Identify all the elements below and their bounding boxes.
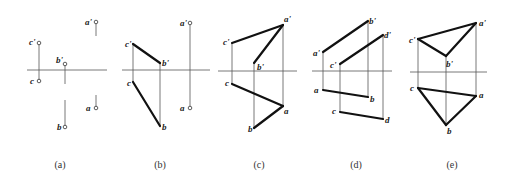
point-label: b' bbox=[369, 16, 377, 26]
edge-line bbox=[232, 84, 283, 106]
point-label: a bbox=[284, 106, 289, 116]
point-label: b bbox=[370, 94, 375, 104]
point-label: c bbox=[30, 76, 34, 86]
point-marker-icon bbox=[37, 79, 41, 83]
edge-line bbox=[133, 82, 160, 126]
point-label: c' bbox=[125, 39, 132, 49]
edge-line bbox=[323, 90, 368, 97]
point-label: b' bbox=[446, 59, 454, 69]
point-marker-icon bbox=[37, 41, 41, 45]
caption-group: (a)(b)(c)(d)(e) bbox=[54, 159, 457, 171]
point-marker-icon bbox=[94, 20, 98, 24]
point-marker-icon bbox=[63, 62, 67, 66]
edge-line bbox=[323, 21, 368, 52]
edge-line bbox=[418, 39, 446, 56]
point-label: a bbox=[180, 103, 185, 113]
point-label: b' bbox=[162, 58, 170, 68]
point-label: c' bbox=[223, 37, 230, 47]
figure-caption: (d) bbox=[350, 159, 362, 171]
point-label: a' bbox=[180, 18, 188, 28]
point-label: b bbox=[248, 124, 253, 134]
figure-d: b'ba'ad'dc'c bbox=[312, 16, 392, 125]
point-marker-icon bbox=[63, 125, 67, 129]
figure-b: c'cb'ba'a bbox=[122, 18, 210, 132]
figure-a: c'cb'ba'a bbox=[27, 17, 107, 132]
point-label: a bbox=[314, 85, 319, 95]
point-label: a' bbox=[313, 48, 321, 58]
point-label: a' bbox=[85, 17, 93, 27]
point-label: a bbox=[86, 103, 91, 113]
point-label: b bbox=[57, 122, 62, 132]
figure-caption: (c) bbox=[253, 159, 264, 171]
edge-line bbox=[418, 88, 446, 125]
point-label: a' bbox=[479, 18, 487, 28]
figure-caption: (a) bbox=[54, 159, 65, 171]
point-marker-icon bbox=[188, 106, 192, 110]
point-label: c bbox=[332, 106, 336, 116]
point-label: c bbox=[410, 83, 414, 93]
point-label: a' bbox=[284, 14, 292, 24]
figure-e: a'ac'cb'b bbox=[409, 18, 487, 136]
figure-group: c'cb'ba'ac'cb'ba'aa'ac'cb'bb'ba'ad'dc'ca… bbox=[27, 14, 487, 136]
point-label: b' bbox=[257, 62, 265, 72]
point-label: d' bbox=[384, 30, 392, 40]
point-label: c' bbox=[29, 37, 36, 47]
edge-line bbox=[133, 44, 160, 63]
edge-line bbox=[254, 106, 283, 128]
figure-c: a'ac'cb'b bbox=[218, 14, 297, 134]
point-marker-icon bbox=[188, 21, 192, 25]
point-marker-icon bbox=[94, 106, 98, 110]
edge-line bbox=[446, 96, 476, 125]
point-label: b bbox=[447, 126, 452, 136]
point-label: b' bbox=[56, 55, 64, 65]
orthographic-projection-diagram: c'cb'ba'ac'cb'ba'aa'ac'cb'bb'ba'ad'dc'ca… bbox=[0, 0, 512, 184]
point-label: c bbox=[225, 78, 229, 88]
point-label: c' bbox=[409, 35, 416, 45]
point-label: b bbox=[162, 122, 167, 132]
edge-line bbox=[340, 35, 383, 64]
point-label: a bbox=[479, 90, 484, 100]
figure-caption: (b) bbox=[154, 159, 166, 171]
point-label: d bbox=[385, 115, 390, 125]
figure-caption: (e) bbox=[446, 159, 457, 171]
edge-line bbox=[340, 112, 383, 119]
point-label: c' bbox=[330, 60, 337, 70]
point-label: c bbox=[127, 78, 131, 88]
edge-line bbox=[418, 88, 476, 96]
